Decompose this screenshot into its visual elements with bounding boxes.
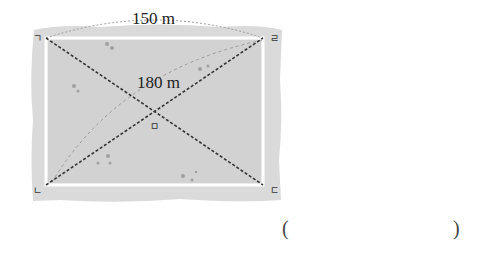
center-label: ㅁ: [150, 121, 159, 132]
diagonal-length-label: 180 m: [137, 73, 180, 92]
answer-value[interactable]: [300, 220, 440, 240]
corner-label-bottom-right: ㄷ: [270, 185, 279, 196]
top-length-label: 150 m: [132, 9, 175, 28]
corner-label-top-right: ㄹ: [270, 33, 279, 44]
rectangle-field-diagram: 150 m 180 m ㄱ ㄹ ㄴ ㄷ ㅁ: [0, 0, 480, 253]
answer-open-paren: (: [282, 217, 289, 240]
corner-label-top-left: ㄱ: [33, 33, 42, 44]
answer-close-paren: ): [453, 217, 460, 240]
corner-label-bottom-left: ㄴ: [33, 185, 42, 196]
